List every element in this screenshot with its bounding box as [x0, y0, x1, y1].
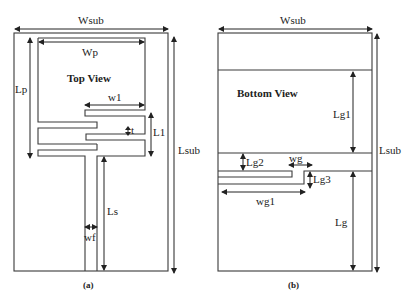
lg2-label: Lg2: [246, 156, 264, 168]
panel-b-bottom-view: Wsub Lsub Bottom View Lg1 Lg2 wg Lg3 wg1…: [218, 14, 402, 290]
wsub-label: Wsub: [78, 14, 104, 26]
wf-label: wf: [84, 231, 96, 243]
l1-label: L1: [153, 126, 165, 138]
wg1-label: wg1: [256, 195, 275, 207]
lg1-label: Lg1: [333, 108, 351, 120]
bottom-view-title: Bottom View: [237, 87, 298, 99]
caption-a: (a): [83, 280, 94, 290]
ls-label: Ls: [107, 205, 118, 217]
w1-label: w1: [108, 91, 121, 103]
ground-slot-strip: [218, 171, 292, 177]
lsub-label-a: Lsub: [178, 144, 201, 156]
lg-label: Lg: [335, 216, 348, 228]
t-label: t: [131, 124, 134, 136]
wsub-label-b: Wsub: [280, 14, 306, 26]
antenna-diagram: Wsub Wp Lp Top View w1 L1 t Lsub Ls wf (…: [0, 0, 411, 301]
lsub-label-b: Lsub: [379, 144, 402, 156]
lg3-label: Lg3: [313, 173, 331, 185]
wg-label: wg: [289, 152, 303, 164]
panel-a-top-view: Wsub Wp Lp Top View w1 L1 t Lsub Ls wf (…: [14, 14, 201, 290]
lp-label: Lp: [15, 83, 28, 95]
wp-label: Wp: [82, 46, 98, 58]
top-view-title: Top View: [67, 72, 111, 84]
caption-b: (b): [288, 280, 299, 290]
